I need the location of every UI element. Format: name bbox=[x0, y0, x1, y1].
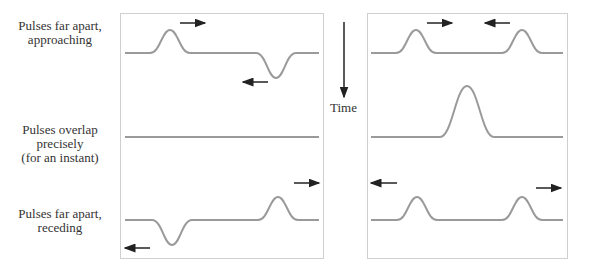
wave-right-receding bbox=[371, 197, 563, 220]
wave-right-approaching bbox=[371, 30, 563, 53]
time-label: Time bbox=[330, 100, 357, 116]
wave-left-receding bbox=[125, 197, 319, 245]
wave-right-overlap bbox=[371, 86, 563, 137]
wave-diagram bbox=[0, 0, 595, 274]
wave-left-approaching bbox=[125, 30, 319, 78]
